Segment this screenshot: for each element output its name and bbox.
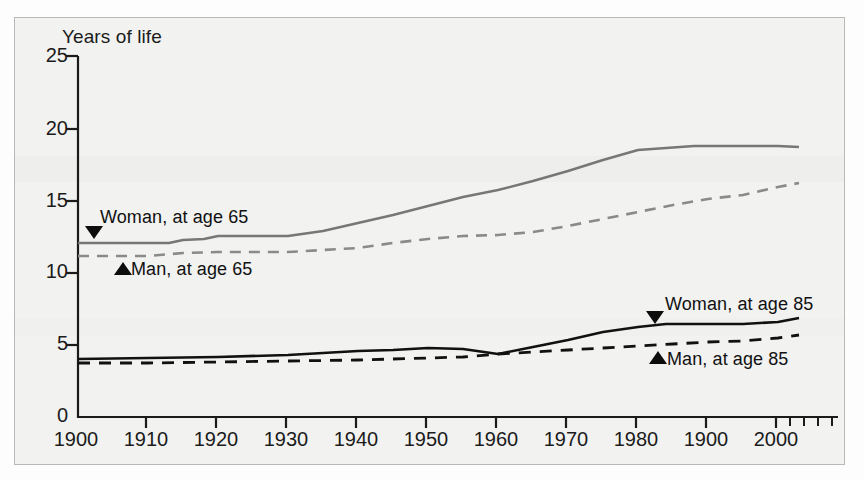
x-minor-tick-marks: [790, 417, 832, 426]
y-tick-marks: [66, 56, 78, 345]
series-label-man-65: Man, at age 65: [131, 259, 253, 280]
chart-screenshot: Years of life 25 20 15 10 5 0 1900 1910 …: [0, 0, 864, 480]
x-tick-marks: [146, 417, 776, 428]
series-label-woman-65: Woman, at age 65: [100, 207, 248, 228]
series-label-man-85: Man, at age 85: [667, 349, 789, 370]
plot-area: [0, 0, 864, 480]
marker-man-85-icon: [649, 351, 667, 364]
series-label-woman-85: Woman, at age 85: [665, 294, 813, 315]
marker-woman-85-icon: [646, 311, 664, 324]
series-line-woman-65: [78, 146, 799, 243]
marker-man-65-icon: [114, 262, 132, 275]
